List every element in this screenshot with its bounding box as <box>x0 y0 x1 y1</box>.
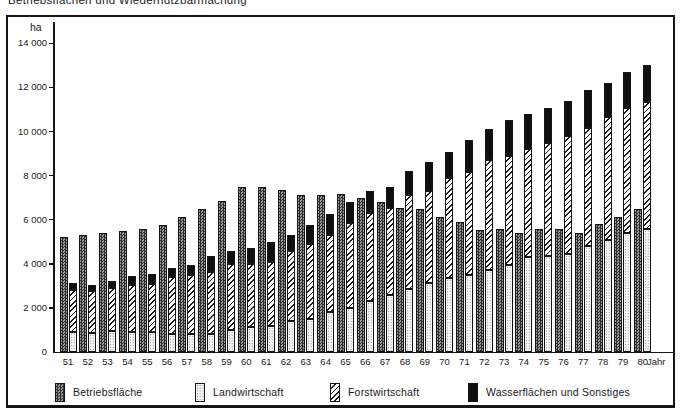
x-category-label-52: 52 <box>77 356 99 367</box>
wasserflaechen-segment-63 <box>306 225 314 244</box>
y-axis-tick <box>49 263 54 265</box>
betriebsflaeche-bar-79 <box>614 217 622 352</box>
wasserflaechen-segment-51 <box>69 283 77 291</box>
landwirtschaft-segment-68 <box>405 289 413 352</box>
forstwirtschaft-segment-75 <box>544 143 552 257</box>
betriebsflaeche-bar-73 <box>496 229 504 352</box>
forstwirtschaft-segment-52 <box>88 291 96 333</box>
forstwirtschaft-segment-60 <box>247 264 255 327</box>
y-tick-label: 6 000 <box>7 215 47 225</box>
wasserflaechen-segment-59 <box>227 251 235 264</box>
betriebsflaeche-bar-69 <box>416 209 424 352</box>
wasserflaechen-segment-64 <box>326 214 334 235</box>
y-axis-tick <box>49 307 54 309</box>
x-category-label-61: 61 <box>255 356 277 367</box>
landwirtschaft-segment-64 <box>326 312 334 352</box>
forstwirtschaft-segment-53 <box>108 288 116 331</box>
wasserflaechen-segment-79 <box>623 72 631 108</box>
forstwirtschaft-segment-76 <box>564 136 572 254</box>
landwirtschaft-segment-73 <box>505 265 513 352</box>
landwirtschaft-segment-53 <box>108 331 116 352</box>
betriebsflaeche-bar-58 <box>198 209 206 352</box>
x-category-label-68: 68 <box>394 356 416 367</box>
betriebsflaeche-bar-64 <box>317 195 325 352</box>
x-category-label-56: 56 <box>156 356 178 367</box>
betriebsflaeche-bar-59 <box>218 201 226 352</box>
forstwirtschaft-segment-64 <box>326 235 334 312</box>
landwirtschaft-segment-69 <box>425 283 433 352</box>
forstwirtschaft-segment-59 <box>227 264 235 330</box>
y-tick-label: 12 000 <box>7 82 47 92</box>
landwirtschaft-segment-60 <box>247 327 255 352</box>
wasserflaechen-segment-57 <box>187 265 195 275</box>
x-category-label-71: 71 <box>453 356 475 367</box>
landwirtschaft-segment-61 <box>267 326 275 352</box>
x-category-label-53: 53 <box>97 356 119 367</box>
landwirtschaft-segment-77 <box>584 246 592 352</box>
landwirtschaft-segment-65 <box>346 308 354 352</box>
y-axis-tick <box>49 175 54 177</box>
forstwirtschaft-segment-70 <box>445 178 453 278</box>
landwirtschaft-segment-59 <box>227 330 235 352</box>
betriebsflaeche-bar-60 <box>238 187 246 352</box>
betriebsflaeche-bar-80 <box>634 209 642 352</box>
betriebsflaeche-bar-62 <box>278 190 286 352</box>
landwirtschaft-swatch-icon <box>195 383 205 402</box>
x-category-label-73: 73 <box>493 356 515 367</box>
x-category-label-58: 58 <box>196 356 218 367</box>
wasserflaechen-segment-75 <box>544 108 552 142</box>
x-category-label-72: 72 <box>473 356 495 367</box>
x-category-label-59: 59 <box>216 356 238 367</box>
betriebsflaeche-bar-53 <box>99 233 107 352</box>
x-category-label-60: 60 <box>235 356 257 367</box>
betriebsflaeche-bar-77 <box>575 233 583 352</box>
wasserflaechen-segment-74 <box>524 114 532 149</box>
x-category-label-76: 76 <box>553 356 575 367</box>
y-tick-label: 0 <box>7 347 47 357</box>
x-category-label-78: 78 <box>592 356 614 367</box>
betriebsflaeche-bar-74 <box>515 233 523 352</box>
forstwirtschaft-segment-74 <box>524 149 532 257</box>
landwirtschaft-segment-52 <box>88 333 96 352</box>
betriebsflaeche-swatch-icon <box>55 383 65 402</box>
forstwirtschaft-segment-73 <box>505 156 513 265</box>
forstwirtschaft-segment-62 <box>287 251 295 322</box>
landwirtschaft-segment-51 <box>69 332 77 352</box>
legend-item-landwirtschaft: Landwirtschaft <box>195 382 284 402</box>
landwirtschaft-segment-66 <box>366 301 374 352</box>
wasserflaechen-segment-80 <box>643 65 651 101</box>
x-category-label-77: 77 <box>572 356 594 367</box>
betriebsflaeche-bar-57 <box>178 217 186 352</box>
wasserflaechen-segment-54 <box>128 276 136 285</box>
landwirtschaft-segment-57 <box>187 334 195 352</box>
y-tick-label: 4 000 <box>7 259 47 269</box>
x-category-label-67: 67 <box>374 356 396 367</box>
landwirtschaft-segment-54 <box>128 332 136 352</box>
betriebsflaeche-bar-51 <box>60 237 68 352</box>
x-category-label-65: 65 <box>334 356 356 367</box>
forstwirtschaft-segment-77 <box>584 128 592 246</box>
x-category-label-75: 75 <box>533 356 555 367</box>
betriebsflaeche-bar-71 <box>456 222 464 352</box>
forstwirtschaft-segment-63 <box>306 244 314 319</box>
forstwirtschaft-segment-65 <box>346 223 354 308</box>
x-category-label-70: 70 <box>434 356 456 367</box>
y-tick-label: 8 000 <box>7 171 47 181</box>
betriebsflaeche-bar-66 <box>357 198 365 352</box>
y-axis-unit-label: ha <box>30 21 42 33</box>
y-axis-line <box>53 22 55 352</box>
wasserflaechen-segment-71 <box>465 140 473 172</box>
legend-label: Forstwirtschaft <box>348 386 419 398</box>
landwirtschaft-segment-79 <box>623 233 631 352</box>
betriebsflaeche-bar-68 <box>396 208 404 352</box>
landwirtschaft-segment-75 <box>544 256 552 352</box>
forstwirtschaft-segment-72 <box>485 160 493 270</box>
betriebsflaeche-bar-67 <box>377 202 385 352</box>
legend-item-betriebsflaeche: Betriebsfläche <box>55 382 142 402</box>
wasserflaechen-segment-53 <box>108 281 116 288</box>
betriebsflaeche-bar-70 <box>436 217 444 352</box>
x-category-label-74: 74 <box>513 356 535 367</box>
forstwirtschaft-segment-80 <box>643 102 651 229</box>
x-category-label-62: 62 <box>275 356 297 367</box>
wasserflaechen-segment-69 <box>425 162 433 191</box>
